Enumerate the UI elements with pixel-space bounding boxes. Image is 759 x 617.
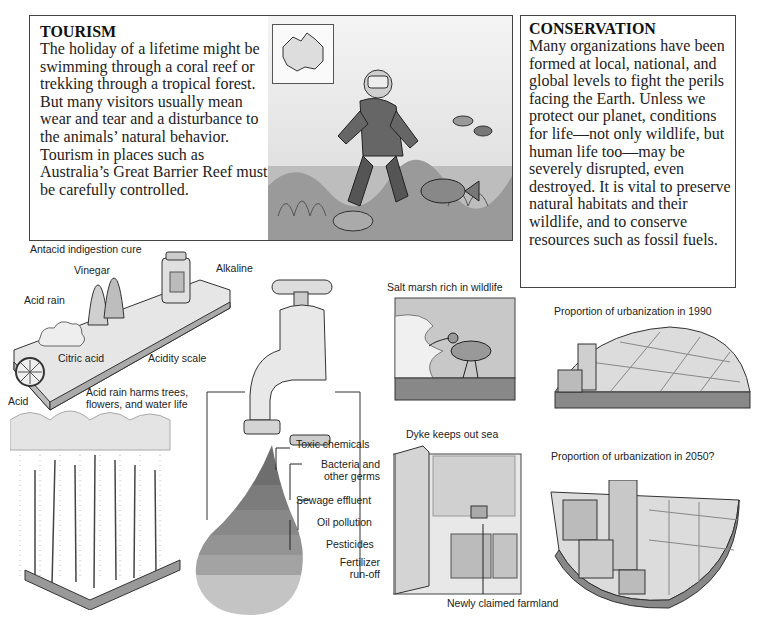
urbanization-1990-illustration	[550, 322, 759, 432]
label-urbanization-1990: Proportion of urbanization in 1990	[554, 305, 712, 317]
dyke-farmland-illustration	[393, 444, 523, 604]
label-urbanization-2050: Proportion of urbanization in 2050?	[551, 450, 714, 462]
urbanization-2050-illustration	[549, 480, 749, 610]
label-acid-rain-harm: Acid rain harms trees, flowers, and wate…	[86, 386, 188, 410]
label-oil-pollution: Oil pollution	[317, 516, 372, 528]
label-citric-acid: Citric acid	[58, 352, 104, 364]
label-acidity-scale: Acidity scale	[148, 352, 206, 364]
australia-map-inset	[272, 24, 334, 84]
label-pesticides: Pesticides	[326, 538, 374, 550]
label-bacteria: Bacteria and other germs	[306, 458, 380, 482]
label-acid-rain: Acid rain	[24, 294, 65, 306]
label-antacid: Antacid indigestion cure	[30, 243, 142, 255]
conservation-heading: CONSERVATION	[529, 20, 733, 37]
label-dyke: Dyke keeps out sea	[406, 428, 498, 440]
label-sewage-effluent: Sewage effluent	[296, 494, 371, 506]
diver-illustration	[268, 16, 512, 240]
label-farmland: Newly claimed farmland	[447, 597, 558, 609]
label-fertilizer: Fertilizer run-off	[316, 556, 380, 580]
acid-rain-forest-illustration	[10, 410, 195, 610]
polluted-water-drop	[190, 440, 310, 617]
salt-marsh-illustration	[393, 296, 518, 406]
australia-map-icon	[273, 25, 333, 83]
conservation-body: Many organizations have been formed at l…	[529, 37, 733, 248]
label-vinegar: Vinegar	[74, 264, 110, 276]
label-acid: Acid	[8, 395, 28, 407]
conservation-panel: CONSERVATION Many organizations have bee…	[520, 15, 736, 288]
tourism-heading: TOURISM	[40, 23, 268, 40]
tourism-panel: TOURISM The holiday of a lifetime might …	[29, 15, 513, 241]
tourism-text: TOURISM The holiday of a lifetime might …	[40, 23, 268, 198]
label-salt-marsh: Salt marsh rich in wildlife	[387, 281, 503, 293]
tourism-body: The holiday of a lifetime might be swimm…	[40, 40, 268, 198]
label-toxic-chemicals: Toxic chemicals	[296, 438, 370, 450]
